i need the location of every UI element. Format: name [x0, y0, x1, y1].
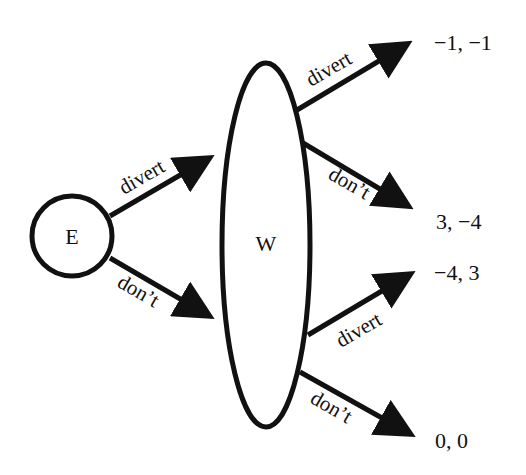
node-w-label: W — [256, 231, 277, 256]
node-w: W — [222, 63, 310, 427]
edge-w2-dont: don’t 0, 0 — [300, 372, 468, 453]
payoff-w2-dont: 0, 0 — [435, 428, 468, 453]
edge-w1-dont: don’t 3, −4 — [303, 143, 481, 234]
edge-e-divert-label: divert — [115, 154, 170, 199]
node-e-label: E — [65, 224, 78, 249]
edge-e-dont: don’t — [110, 258, 206, 314]
payoff-w1-dont: 3, −4 — [436, 209, 481, 234]
edge-w2-divert: divert −4, 3 — [308, 260, 479, 352]
payoff-w2-divert: −4, 3 — [434, 260, 479, 285]
edge-w1-divert: divert −1, −1 — [297, 30, 492, 110]
edge-e-divert: divert — [110, 154, 206, 216]
edge-w1-divert-label: divert — [302, 46, 357, 91]
node-e: E — [32, 196, 112, 276]
payoff-w1-divert: −1, −1 — [434, 30, 492, 55]
game-tree-diagram: E W divert don’t divert −1, −1 don’t 3, … — [0, 0, 526, 475]
